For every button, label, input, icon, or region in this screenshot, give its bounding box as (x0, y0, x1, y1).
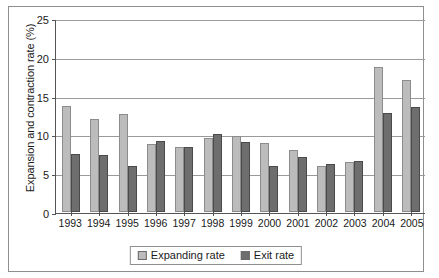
y-axis-tick-label: 15 (37, 92, 49, 104)
x-axis-tick-label-2003: 2003 (341, 217, 369, 229)
x-axis-tick-label-2005: 2005 (398, 217, 426, 229)
x-axis-tick (354, 212, 355, 216)
y-axis-tick (52, 98, 56, 99)
bar-exit-rate-1996 (156, 141, 165, 212)
chart-figure: Expansion and contraction rate (%) 05101… (8, 6, 424, 272)
bar-group (368, 20, 396, 212)
bar-expanding-rate-2001 (289, 150, 298, 212)
bar-expanding-rate-1999 (232, 136, 241, 212)
x-axis-tick-label-1998: 1998 (198, 217, 226, 229)
bar-exit-rate-1999 (241, 142, 250, 212)
bar-exit-rate-1993 (71, 154, 80, 212)
x-axis-tick-label-1997: 1997 (170, 217, 198, 229)
bar-groups (57, 20, 425, 212)
x-axis-tick-label-1993: 1993 (56, 217, 84, 229)
bar-exit-rate-2001 (298, 157, 307, 212)
y-axis-tick (52, 59, 56, 60)
chart-legend: Expanding rate Exit rate (130, 246, 302, 265)
x-axis-tick (298, 212, 299, 216)
bar-expanding-rate-1996 (147, 144, 156, 212)
bar-expanding-rate-1994 (90, 119, 99, 212)
x-axis-tick (128, 212, 129, 216)
bar-exit-rate-2005 (411, 107, 420, 212)
x-axis-tick (269, 212, 270, 216)
bar-expanding-rate-1993 (62, 106, 71, 212)
bar-group (114, 20, 142, 212)
x-axis-tick (241, 212, 242, 216)
x-axis-tick (71, 212, 72, 216)
x-axis-tick-label-1996: 1996 (141, 217, 169, 229)
x-axis-tick (156, 212, 157, 216)
bar-group (170, 20, 198, 212)
legend-swatch-expanding-rate (138, 251, 147, 260)
bar-group (284, 20, 312, 212)
y-axis-tick-label: 25 (37, 14, 49, 26)
legend-label-expanding-rate: Expanding rate (151, 249, 225, 261)
y-axis-tick (52, 175, 56, 176)
bar-expanding-rate-1995 (119, 114, 128, 212)
bar-expanding-rate-2000 (260, 143, 269, 212)
x-axis-tick-label-2001: 2001 (284, 217, 312, 229)
x-axis-tick-label-1995: 1995 (113, 217, 141, 229)
bar-exit-rate-2000 (269, 166, 278, 212)
x-axis-tick-label-2004: 2004 (369, 217, 397, 229)
x-axis-tick (411, 212, 412, 216)
y-axis-tick-label: 0 (43, 208, 49, 220)
bar-exit-rate-1997 (184, 147, 193, 212)
bar-group (199, 20, 227, 212)
bar-group (255, 20, 283, 212)
bar-expanding-rate-2003 (345, 162, 354, 212)
x-axis-tick (326, 212, 327, 216)
bar-group (397, 20, 425, 212)
y-axis-tick (52, 214, 56, 215)
bar-exit-rate-2003 (354, 161, 363, 212)
legend-swatch-exit-rate (241, 251, 250, 260)
bar-expanding-rate-2002 (317, 166, 326, 212)
x-axis-tick (213, 212, 214, 216)
legend-entry-expanding-rate: Expanding rate (138, 249, 225, 261)
y-axis-tick-label: 10 (37, 130, 49, 142)
x-axis-tick (383, 212, 384, 216)
x-axis-tick (184, 212, 185, 216)
bar-exit-rate-2004 (383, 113, 392, 212)
bar-group (340, 20, 368, 212)
bar-group (57, 20, 85, 212)
bar-expanding-rate-1998 (204, 138, 213, 212)
legend-entry-exit-rate: Exit rate (241, 249, 294, 261)
bar-expanding-rate-2005 (402, 80, 411, 212)
y-axis-tick-label: 20 (37, 53, 49, 65)
bar-expanding-rate-1997 (175, 147, 184, 212)
y-axis-tick (52, 20, 56, 21)
bar-exit-rate-1998 (213, 134, 222, 212)
bar-group (85, 20, 113, 212)
x-axis-tick-label-1999: 1999 (227, 217, 255, 229)
bar-group (227, 20, 255, 212)
y-axis-tick (52, 136, 56, 137)
x-axis-tick-labels: 1993199419951996199719981999200020012002… (56, 217, 426, 229)
legend-label-exit-rate: Exit rate (254, 249, 294, 261)
bar-group (312, 20, 340, 212)
y-axis-tick-label: 5 (43, 169, 49, 181)
bar-exit-rate-1994 (99, 155, 108, 212)
x-axis-tick-label-2002: 2002 (312, 217, 340, 229)
bar-exit-rate-1995 (128, 166, 137, 212)
plot-area: 0510152025 (55, 20, 425, 214)
bar-exit-rate-2002 (326, 164, 335, 212)
x-axis-tick-label-1994: 1994 (84, 217, 112, 229)
bar-expanding-rate-2004 (374, 67, 383, 212)
x-axis-tick-label-2000: 2000 (255, 217, 283, 229)
bar-group (142, 20, 170, 212)
y-axis-title: Expansion and contraction rate (%) (24, 13, 36, 203)
x-axis-tick (99, 212, 100, 216)
